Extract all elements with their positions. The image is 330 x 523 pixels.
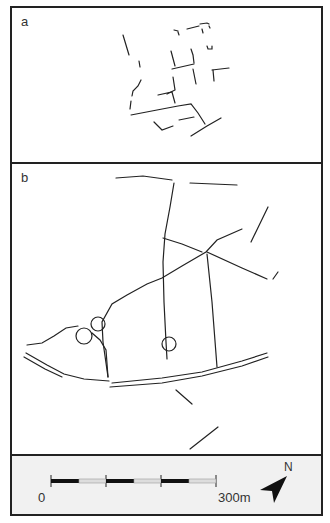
panel-a-drawing bbox=[12, 8, 321, 162]
north-arrow-icon bbox=[260, 476, 287, 503]
panel-b: b bbox=[12, 164, 321, 456]
legend-panel: 0 300m N bbox=[12, 456, 321, 514]
scale-start-label: 0 bbox=[38, 490, 45, 505]
panel-a: a bbox=[12, 8, 321, 164]
scale-bar bbox=[12, 456, 321, 514]
north-label: N bbox=[284, 460, 293, 474]
scale-end-label: 300m bbox=[218, 490, 251, 505]
figure-frame: a bbox=[10, 6, 323, 516]
panel-b-drawing bbox=[12, 164, 321, 454]
